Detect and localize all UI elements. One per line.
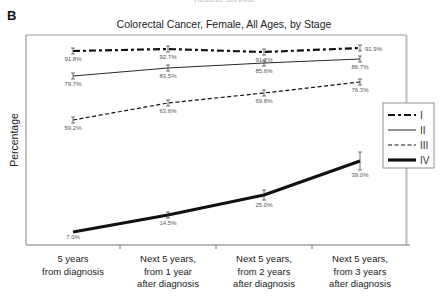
data-label: 86.7% [351,64,369,70]
data-label: 63.6% [159,108,177,114]
chart-container: Relative Survival B Colorectal Cancer, F… [0,0,448,296]
panel-letter: B [7,8,16,23]
legend-label: III [420,140,428,151]
x-category-label: Next 5 years,from 2 yearsafter diagnosis [233,253,295,289]
chart-title: Colorectal Cancer, Female, All Ages, by … [117,18,332,30]
series-line [73,48,360,52]
data-label: 25.0% [255,202,273,208]
line-chart: Relative Survival B Colorectal Cancer, F… [0,0,448,296]
series-stage-iv: 7.0%14.5%25.0%39.0% [66,152,369,240]
data-label: 69.8% [255,98,273,104]
clipped-header-text: Relative Survival [194,0,254,4]
legend: IIIIIIIV [383,35,434,245]
series-line [73,59,360,76]
x-category-label: 5 yearsfrom diagnosis [42,253,104,277]
data-label: 7.0% [66,234,80,240]
series-stage-ii: 79.7%83.5%85.6%86.7% [64,56,369,87]
x-category-label: Next 5 years,from 3 yearsafter diagnosis [329,253,391,289]
legend-label: IV [420,155,430,166]
data-label: 85.6% [255,68,273,74]
legend-label: II [420,125,426,136]
data-label: 92.7% [159,54,177,60]
data-label: 39.0% [351,172,369,178]
data-label: 79.7% [64,81,82,87]
series-stage-iii: 59.2%63.6%69.8%76.3% [64,79,369,131]
data-label: 83.5% [159,73,177,79]
series-line [73,82,360,120]
data-label: 59.2% [64,125,82,131]
x-axis-ticks [120,245,312,249]
data-label: 76.3% [351,87,369,93]
series-layer: 91.8%92.7%91.2%91.9%79.7%83.5%85.6%86.7%… [64,45,382,240]
x-category-label: Next 5 years,from 1 yearafter diagnosis [137,253,199,289]
data-label: 91.8% [64,56,82,62]
data-label: 91.9% [365,46,383,52]
y-axis-label: Percentage [8,113,20,167]
x-axis-category-labels: 5 yearsfrom diagnosisNext 5 years,from 1… [42,253,391,289]
legend-label: I [420,110,423,121]
series-line [73,161,360,232]
data-label: 14.5% [159,220,177,226]
